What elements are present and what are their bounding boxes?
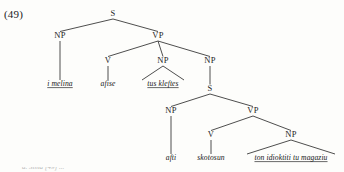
page-bleed-text: a. Sima [49] ... bbox=[0, 167, 344, 172]
tree-branch bbox=[113, 19, 158, 32]
tree-node-s: S bbox=[110, 8, 115, 18]
tree-leaf-label: tus kleftes bbox=[147, 79, 178, 88]
tree-node-s: S bbox=[207, 83, 212, 93]
tree-branch bbox=[171, 94, 210, 107]
tree-node-vp: VP bbox=[152, 30, 163, 40]
tree-node-np: NP bbox=[165, 105, 176, 115]
tree-node-np: NP bbox=[285, 129, 296, 139]
tree-leaf-label: afise bbox=[101, 79, 116, 88]
bleed-caption: a. Sima [49] ... bbox=[22, 167, 64, 171]
syntax-tree-figure: (49) SNPVPVNPNPSNPVPVNP i melinaafisetus… bbox=[0, 0, 344, 172]
tree-leaf-label: afti bbox=[166, 153, 177, 162]
constituent-triangle bbox=[142, 66, 184, 80]
tree-node-np: NP bbox=[157, 55, 168, 65]
tree-leaf-label: ton idioktiti tu magaziu bbox=[254, 153, 327, 162]
tree-leaf-label: skotosun bbox=[197, 153, 224, 162]
tree-leaves-layer: i melinaafisetus kleftesaftiskotosunton … bbox=[47, 79, 327, 162]
tree-branch bbox=[60, 19, 113, 32]
tree-branch bbox=[211, 116, 253, 131]
tree-nodes-layer: SNPVPVNPNPSNPVPVNP bbox=[54, 8, 296, 139]
tree-leaf-label: i melina bbox=[47, 79, 73, 88]
tree-node-np: NP bbox=[204, 55, 215, 65]
parse-tree-diagram: SNPVPVNPNPSNPVPVNP i melinaafisetus klef… bbox=[0, 0, 344, 172]
constituent-triangle bbox=[247, 140, 335, 154]
tree-branch bbox=[108, 41, 158, 57]
tree-node-v: V bbox=[208, 129, 215, 139]
tree-node-v: V bbox=[105, 55, 112, 65]
tree-node-np: NP bbox=[54, 30, 65, 40]
tree-node-vp: VP bbox=[247, 105, 258, 115]
